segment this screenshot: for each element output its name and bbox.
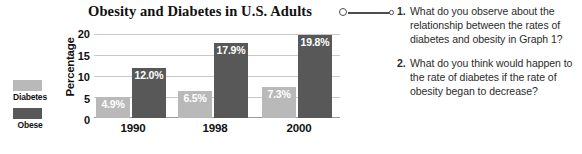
bar-value-obese-2000: 19.8% bbox=[301, 35, 330, 48]
legend-swatch-diabetes bbox=[13, 80, 42, 91]
plot-area: 4.9% 12.0% 6.5% 17.9% 7.3% 19. bbox=[94, 28, 340, 118]
bar-value-obese-1998: 17.9% bbox=[217, 43, 246, 56]
y-axis-label: Percentage bbox=[64, 31, 76, 103]
bar-chart: Percentage 20 15 10 5 0 4.9% 12.0% 6.5% bbox=[58, 24, 340, 142]
question-number-1: 1. bbox=[397, 4, 410, 47]
x-tick-2000: 2000 bbox=[260, 122, 338, 134]
bar-value-obese-1990: 12.0% bbox=[135, 68, 164, 81]
connector-dot-icon bbox=[389, 10, 394, 15]
question-number-2: 2. bbox=[397, 56, 410, 99]
chart-title: Obesity and Diabetes in U.S. Adults bbox=[64, 3, 336, 20]
bar-value-diabetes-1998: 6.5% bbox=[183, 91, 206, 104]
x-tick-1990: 1990 bbox=[94, 122, 172, 134]
legend-swatch-obese bbox=[13, 108, 42, 119]
y-tick-20: 20 bbox=[68, 29, 90, 40]
bar-obese-1990: 12.0% bbox=[132, 68, 166, 118]
y-tick-0: 0 bbox=[68, 115, 90, 126]
bar-group-1998: 6.5% 17.9% bbox=[178, 28, 252, 118]
x-tick-1998: 1998 bbox=[176, 122, 254, 134]
connector-line bbox=[348, 12, 390, 14]
question-item-2: 2. What do you think would happen to the… bbox=[397, 56, 580, 99]
bar-value-diabetes-1990: 4.9% bbox=[101, 97, 124, 110]
ring-line-dot-connector-icon bbox=[339, 7, 397, 19]
legend-label-obese: Obese bbox=[4, 120, 56, 131]
bar-value-diabetes-2000: 7.3% bbox=[267, 87, 290, 100]
bar-diabetes-1990: 4.9% bbox=[96, 97, 130, 118]
question-item-1: 1. What do you observe about the relatio… bbox=[397, 4, 580, 47]
legend-item-obese: Obese bbox=[4, 108, 56, 131]
bar-obese-1998: 17.9% bbox=[214, 43, 248, 118]
y-tick-5: 5 bbox=[68, 94, 90, 105]
legend-item-diabetes: Diabetes bbox=[4, 80, 56, 103]
bar-group-2000: 7.3% 19.8% bbox=[262, 28, 336, 118]
bar-diabetes-2000: 7.3% bbox=[262, 87, 296, 118]
bar-obese-2000: 19.8% bbox=[298, 35, 332, 118]
bar-diabetes-1998: 6.5% bbox=[178, 91, 212, 118]
worksheet-figure: Diabetes Obese Obesity and Diabetes in U… bbox=[0, 0, 582, 154]
chart-legend: Diabetes Obese bbox=[4, 80, 56, 136]
connector-ring-icon bbox=[339, 8, 347, 16]
y-tick-10: 10 bbox=[68, 72, 90, 83]
question-list: 1. What do you observe about the relatio… bbox=[397, 4, 580, 107]
bar-group-1990: 4.9% 12.0% bbox=[96, 28, 170, 118]
legend-label-diabetes: Diabetes bbox=[4, 92, 56, 103]
y-tick-15: 15 bbox=[68, 51, 90, 62]
question-text-2: What do you think would happen to the ra… bbox=[410, 56, 580, 99]
question-text-1: What do you observe about the relationsh… bbox=[410, 4, 580, 47]
